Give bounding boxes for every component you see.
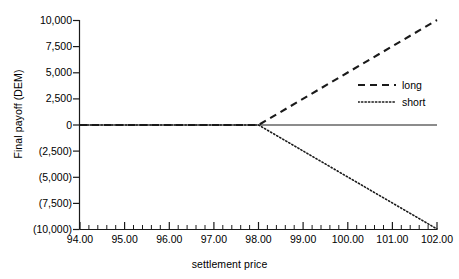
series-line-long [80, 20, 437, 125]
legend-item-long: long [358, 80, 422, 91]
y-axis-ticks [73, 21, 80, 230]
legend-swatch-short-dotted-line-icon [358, 97, 396, 107]
plot-area [0, 0, 459, 279]
legend-label-short: short [402, 97, 425, 108]
series-line-short [80, 125, 437, 229]
legend-label-long: long [402, 80, 422, 91]
payoff-chart-figure: Final payoff (DEM) 10,000 7,500 5,000 2,… [0, 0, 459, 279]
legend-item-short: short [358, 97, 425, 108]
legend-swatch-long-dashed-line-icon [358, 80, 396, 90]
